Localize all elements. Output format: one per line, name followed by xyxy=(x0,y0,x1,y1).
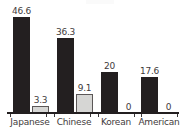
cropped-title-remnant xyxy=(86,0,114,4)
x-axis-line xyxy=(7,112,179,114)
bar-value-japanese-dark: 46.6 xyxy=(12,6,31,16)
x-axis-label-american: American xyxy=(134,117,184,128)
bar-value-american-light: 0 xyxy=(166,102,172,112)
bar-value-chinese-dark: 36.3 xyxy=(56,27,75,37)
x-axis-label-chinese: Chinese xyxy=(52,117,96,128)
bar-value-american-dark: 17.6 xyxy=(140,66,159,76)
bar-chinese-dark[interactable] xyxy=(57,38,74,113)
bar-group-american: 17.6 0 xyxy=(141,6,177,113)
bar-value-korean-dark: 20 xyxy=(104,61,115,71)
bar-value-chinese-light: 9.1 xyxy=(78,83,92,93)
x-axis-label-korean: Korean xyxy=(94,117,138,128)
bar-chart: 46.6 3.3 36.3 9.1 20 xyxy=(0,0,186,132)
bar-value-japanese-light: 3.3 xyxy=(34,95,48,105)
plot-area: 46.6 3.3 36.3 9.1 20 xyxy=(7,6,179,113)
bar-chinese-light[interactable] xyxy=(76,94,93,113)
bar-group-japanese: 46.6 3.3 xyxy=(13,6,49,113)
bar-american-dark[interactable] xyxy=(141,77,158,113)
x-axis-label-japanese: Japanese xyxy=(6,117,54,128)
bar-group-korean: 20 0 xyxy=(101,6,137,113)
bar-korean-dark[interactable] xyxy=(101,72,118,113)
bar-japanese-dark[interactable] xyxy=(13,17,30,113)
bar-group-chinese: 36.3 9.1 xyxy=(57,6,93,113)
bar-value-korean-light: 0 xyxy=(126,102,132,112)
